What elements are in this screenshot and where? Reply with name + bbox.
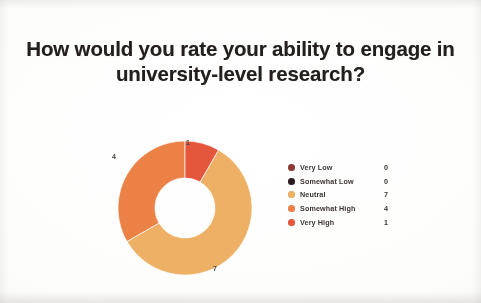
slice-label-neutral: 7 — [213, 265, 217, 272]
slice-label-somewhat-high: 4 — [112, 153, 116, 160]
chart-legend: Very Low 0 Somewhat Low 0 Neutral 7 Some… — [288, 161, 403, 229]
legend-item-somewhat-low[interactable]: Somewhat Low 0 — [288, 175, 403, 189]
legend-item-value: 0 — [384, 177, 388, 186]
legend-item-very-high[interactable]: Very High 1 — [288, 215, 403, 229]
legend-item-value: 7 — [384, 190, 388, 199]
legend-item-very-low[interactable]: Very Low 0 — [288, 161, 403, 175]
legend-swatch-icon — [288, 191, 295, 198]
legend-swatch-icon — [288, 219, 295, 226]
legend-item-label: Very Low — [300, 163, 333, 172]
donut-chart: 1 4 7 — [112, 138, 262, 278]
legend-item-value: 4 — [384, 204, 388, 213]
legend-item-value: 1 — [384, 218, 388, 227]
donut-chart-svg — [112, 138, 262, 278]
donut-slice-somewhat-high[interactable] — [118, 141, 185, 242]
legend-item-label: Somewhat High — [300, 204, 355, 213]
legend-item-somewhat-high[interactable]: Somewhat High 4 — [288, 202, 403, 216]
slice-label-very-high: 1 — [186, 139, 190, 146]
slide-canvas: How would you rate your ability to engag… — [0, 0, 481, 303]
legend-swatch-icon — [288, 164, 295, 171]
donut-slice-group — [118, 141, 252, 275]
legend-item-neutral[interactable]: Neutral 7 — [288, 188, 403, 202]
legend-swatch-icon — [288, 178, 295, 185]
page-title: How would you rate your ability to engag… — [24, 36, 457, 86]
legend-item-value: 0 — [384, 163, 388, 172]
legend-item-label: Neutral — [300, 190, 326, 199]
legend-item-label: Very High — [300, 218, 334, 227]
legend-swatch-icon — [288, 205, 295, 212]
legend-item-label: Somewhat Low — [300, 177, 354, 186]
